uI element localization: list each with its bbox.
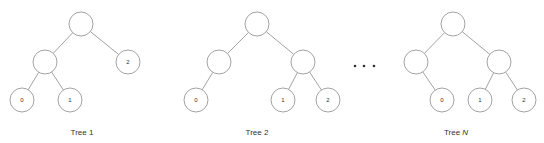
edges-layer — [28, 32, 517, 91]
leaf-node: 1 — [468, 88, 492, 112]
tree-label-index: N — [462, 128, 468, 137]
internal-node — [207, 50, 231, 74]
leaf-node: 1 — [58, 88, 82, 112]
tree-edge — [28, 72, 39, 89]
tree-label-base: Tree — [71, 128, 89, 137]
leaf-node: 0 — [184, 88, 208, 112]
ellipsis-dot — [363, 65, 366, 68]
leaf-node: 2 — [116, 50, 140, 74]
internal-node — [291, 50, 315, 74]
tree-edge — [52, 72, 64, 90]
ellipsis-dot — [373, 65, 376, 68]
tree-edge — [289, 73, 298, 90]
internal-node — [69, 12, 93, 36]
internal-node — [404, 50, 428, 74]
internal-node — [487, 50, 511, 74]
tree-label-index: 1 — [89, 128, 93, 137]
tree-edge — [90, 32, 118, 55]
tree-label: Tree N — [444, 128, 468, 137]
node-circle — [33, 50, 57, 74]
tree-edge — [506, 72, 518, 90]
tree-edge — [266, 32, 293, 55]
node-circle — [404, 50, 428, 74]
node-circle — [487, 50, 511, 74]
leaf-node: 2 — [512, 88, 536, 112]
tree-label: Tree 2 — [246, 128, 269, 137]
leaf-node: 0 — [430, 88, 454, 112]
tree-edge — [485, 73, 493, 90]
internal-node — [33, 50, 57, 74]
tree-edge — [462, 32, 489, 55]
node-circle — [441, 12, 465, 36]
leaf-node: 0 — [10, 88, 34, 112]
tree-edge — [310, 72, 322, 90]
leaf-node: 1 — [271, 88, 295, 112]
tree-edge — [227, 32, 248, 53]
node-circle — [207, 50, 231, 74]
tree-edge — [202, 72, 213, 89]
node-circle — [291, 50, 315, 74]
node-circle — [69, 12, 93, 36]
tree-label-index: 2 — [264, 128, 268, 137]
node-circle — [245, 12, 269, 36]
internal-node — [441, 12, 465, 36]
nodes-layer: 201012012 — [10, 12, 536, 112]
tree-edge — [423, 72, 435, 90]
tree-edge — [53, 33, 72, 54]
ellipsis-dots — [354, 65, 376, 68]
tree-label-base: Tree — [246, 128, 264, 137]
internal-node — [245, 12, 269, 36]
trees-diagram: 201012012 — [0, 0, 544, 143]
tree-label-base: Tree — [444, 128, 462, 137]
ellipsis-dot — [354, 65, 357, 68]
leaf-node: 2 — [316, 88, 340, 112]
tree-label: Tree 1 — [71, 128, 94, 137]
tree-edge — [424, 33, 444, 54]
